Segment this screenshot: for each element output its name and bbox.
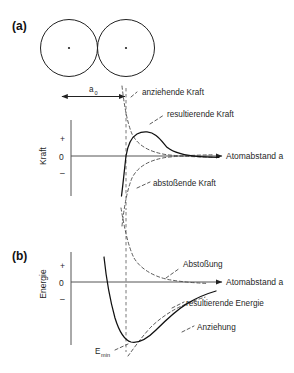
panel-b-label: (b) [12, 249, 27, 263]
atom-center-dot-left [68, 47, 70, 49]
leader-attraction [182, 326, 194, 332]
label-resultant-force: resultierende Kraft [167, 110, 235, 119]
atomic-force-energy-figure: (a) a 0 + 0 – Kraft Atomabstand a anzieh… [0, 0, 294, 373]
panel-a-label: (a) [12, 19, 27, 33]
label-attraction: Anziehung [197, 323, 236, 332]
panel-a-tick-minus: – [60, 168, 65, 178]
panel-b-tick-zero: 0 [59, 278, 64, 288]
panel-b-tick-plus: + [60, 261, 65, 271]
figure-root: (a) a 0 + 0 – Kraft Atomabstand a anzieh… [0, 0, 294, 373]
atom-pair-diagram [41, 20, 155, 77]
panel-a-tick-plus: + [60, 134, 65, 144]
emin-marker: E min [95, 344, 128, 358]
label-attractive-force: anziehende Kraft [142, 88, 205, 97]
panel-b-y-axis-label: Energie [38, 269, 48, 299]
leader-resultant-force [150, 115, 164, 124]
atom-center-dot-right [125, 47, 127, 49]
label-repulsive-force: abstoßende Kraft [153, 179, 217, 188]
panel-b-tick-minus: – [60, 294, 65, 304]
a0-subscript: 0 [95, 90, 98, 96]
panel-a-x-axis-label: Atomabstand a [226, 151, 283, 161]
panel-a-y-axis-label: Kraft [38, 146, 48, 165]
curve-repulsion-energy [121, 208, 208, 283]
a0-label: a [89, 85, 94, 94]
equilibrium-distance-marker: a 0 [62, 85, 125, 97]
panel-b-x-axis-label: Atomabstand a [226, 277, 283, 287]
panel-a-tick-zero: 0 [59, 152, 64, 162]
label-repulsion: Abstoßung [183, 260, 223, 269]
curve-repulsive-force [122, 155, 214, 226]
label-resultant-energy: resultierende Energie [186, 299, 264, 308]
leader-repulsive-force [137, 182, 150, 188]
emin-subscript: min [101, 352, 110, 358]
leader-attractive-force [131, 92, 137, 97]
leader-repulsion [166, 268, 180, 278]
